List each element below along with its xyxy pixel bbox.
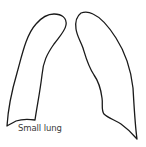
- lung-diagram: Small lung: [0, 0, 146, 147]
- left-lung-outline: [7, 14, 66, 126]
- right-lung-outline: [76, 12, 137, 139]
- diagram-label: Small lung: [18, 123, 62, 133]
